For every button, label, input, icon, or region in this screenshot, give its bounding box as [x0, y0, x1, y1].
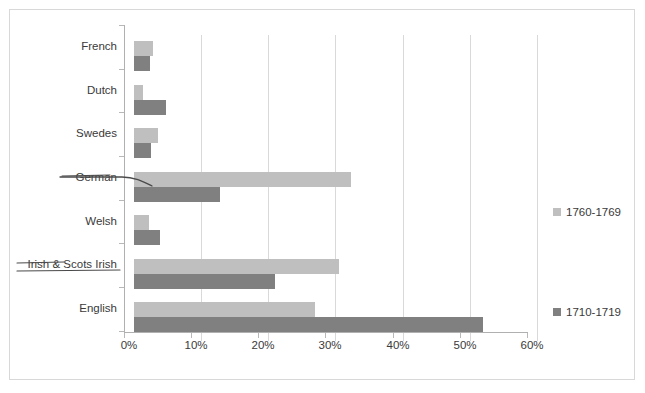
- bar-dutch-1760: [134, 85, 143, 100]
- gridline-40: [403, 35, 404, 341]
- y-tick-0: [119, 25, 124, 26]
- bar-welsh-1710: [134, 230, 160, 245]
- y-axis-label-irish: Irish & Scots Irish: [0, 258, 117, 270]
- gridline-20: [268, 35, 269, 341]
- x-tick-10: [191, 333, 192, 338]
- y-axis-label-dutch: Dutch: [0, 84, 117, 96]
- x-axis-line: [124, 332, 528, 333]
- bar-french-1760: [134, 41, 153, 56]
- y-axis-label-welsh: Welsh: [0, 215, 117, 227]
- legend-label-1710: 1710-1719: [566, 306, 621, 318]
- y-axis-label-german-text: German: [75, 171, 117, 183]
- y-axis-label-german: German: [0, 171, 117, 183]
- y-tick-3: [119, 156, 124, 157]
- bar-german-1710: [134, 187, 220, 202]
- bar-swedes-1710: [134, 143, 151, 158]
- x-tick-20: [258, 333, 259, 338]
- x-tick-0: [124, 333, 125, 338]
- x-axis-label-50: 50%: [453, 339, 476, 351]
- x-tick-30: [325, 333, 326, 338]
- bar-english-1760: [134, 302, 315, 317]
- y-axis-label-swedes: Swedes: [0, 127, 117, 139]
- x-axis-label-10: 10%: [184, 339, 207, 351]
- gridline-30: [335, 35, 336, 341]
- y-axis-label-english: English: [0, 302, 117, 314]
- bar-german-1760: [134, 172, 351, 187]
- y-tick-2: [119, 112, 124, 113]
- x-axis-label-0: 0%: [121, 339, 138, 351]
- bar-dutch-1710: [134, 100, 166, 115]
- y-axis-label-swedes-text: Swedes: [76, 127, 117, 139]
- y-axis-label-french: French: [0, 40, 117, 52]
- x-axis-label-20: 20%: [251, 339, 274, 351]
- y-tick-7: [119, 331, 124, 332]
- y-axis-label-english-text: English: [79, 302, 117, 314]
- y-axis-label-french-text: French: [81, 40, 117, 52]
- y-tick-4: [119, 200, 124, 201]
- gridline-50: [470, 35, 471, 341]
- legend-label-1760: 1760-1769: [566, 206, 621, 218]
- bar-swedes-1760: [134, 128, 158, 143]
- y-tick-6: [119, 287, 124, 288]
- bar-irish-1710: [134, 274, 275, 289]
- plot-area: [134, 35, 537, 341]
- chart-frame: [9, 9, 635, 380]
- y-axis-label-dutch-text: Dutch: [87, 84, 117, 96]
- x-tick-40: [393, 333, 394, 338]
- x-tick-60: [527, 333, 528, 338]
- x-axis-label-30: 30%: [318, 339, 341, 351]
- y-axis-label-welsh-text: Welsh: [85, 215, 117, 227]
- y-axis-line: [124, 25, 125, 333]
- legend-item-1710[interactable]: 1710-1719: [553, 306, 621, 318]
- x-tick-50: [460, 333, 461, 338]
- legend-swatch-1710: [553, 308, 561, 316]
- bar-english-1710: [134, 317, 483, 332]
- legend-swatch-1760: [553, 208, 561, 216]
- y-tick-5: [119, 243, 124, 244]
- x-axis-label-60: 60%: [520, 339, 543, 351]
- gridline-60: [537, 35, 538, 341]
- y-axis-label-irish-text: Irish & Scots Irish: [28, 258, 117, 270]
- y-tick-1: [119, 69, 124, 70]
- legend-item-1760[interactable]: 1760-1769: [553, 206, 621, 218]
- bar-french-1710: [134, 56, 150, 71]
- x-axis-label-40: 40%: [386, 339, 409, 351]
- bar-irish-1760: [134, 259, 339, 274]
- chart-screenshot: French Dutch Swedes German Welsh Irish &…: [0, 0, 645, 393]
- bar-welsh-1760: [134, 215, 149, 230]
